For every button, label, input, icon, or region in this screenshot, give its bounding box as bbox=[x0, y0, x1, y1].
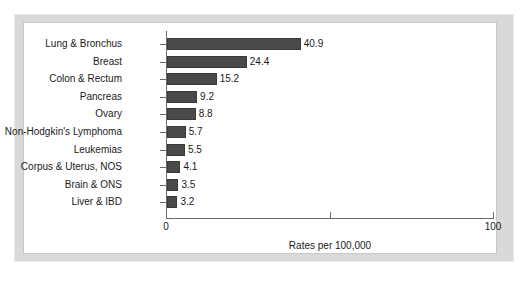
bar bbox=[167, 144, 185, 156]
category-label: Breast bbox=[0, 54, 122, 70]
bar-value-label: 8.8 bbox=[199, 106, 213, 122]
x-axis-title: Rates per 100,000 bbox=[166, 240, 494, 251]
bar-value-label: 5.7 bbox=[189, 124, 203, 140]
bar-value-label: 9.2 bbox=[200, 89, 214, 105]
category-label: Liver & IBD bbox=[0, 194, 122, 210]
y-axis-tick bbox=[160, 132, 166, 133]
x-axis-tick bbox=[166, 212, 167, 218]
category-label: Pancreas bbox=[0, 89, 122, 105]
bar-value-label: 15.2 bbox=[220, 71, 239, 87]
category-label: Colon & Rectum bbox=[0, 71, 122, 87]
y-axis-tick bbox=[160, 150, 166, 151]
bar-value-label: 3.2 bbox=[180, 194, 194, 210]
chart-bar-row: Breast24.4 bbox=[0, 54, 528, 70]
chart-bar-row: Leukemias5.5 bbox=[0, 142, 528, 158]
bar-value-label: 24.4 bbox=[250, 54, 269, 70]
y-axis-tick bbox=[160, 44, 166, 45]
category-label: Leukemias bbox=[0, 142, 122, 158]
x-axis-line bbox=[166, 218, 494, 219]
y-axis-tick bbox=[160, 79, 166, 80]
chart-bar-row: Non-Hodgkin's Lymphoma5.7 bbox=[0, 124, 528, 140]
y-axis-tick bbox=[160, 97, 166, 98]
bar-value-label: 3.5 bbox=[181, 177, 195, 193]
bar bbox=[167, 73, 217, 85]
category-label: Lung & Bronchus bbox=[0, 36, 122, 52]
bar-value-label: 5.5 bbox=[188, 142, 202, 158]
plot-area: Rates per 100,000 0100Lung & Bronchus40.… bbox=[0, 0, 528, 282]
chart-bar-row: Corpus & Uterus, NOS4.1 bbox=[0, 159, 528, 175]
bar bbox=[167, 196, 177, 208]
bar-value-label: 4.1 bbox=[183, 159, 197, 175]
chart-bar-row: Lung & Bronchus40.9 bbox=[0, 36, 528, 52]
chart-bar-row: Brain & ONS3.5 bbox=[0, 177, 528, 193]
bar bbox=[167, 56, 247, 68]
bar bbox=[167, 91, 197, 103]
bar-value-label: 40.9 bbox=[304, 36, 323, 52]
y-axis-tick bbox=[160, 167, 166, 168]
y-axis-tick bbox=[160, 185, 166, 186]
category-label: Corpus & Uterus, NOS bbox=[0, 159, 122, 175]
bar bbox=[167, 126, 186, 138]
x-axis-tick-label: 100 bbox=[479, 221, 507, 232]
bar bbox=[167, 161, 180, 173]
chart-figure: Rates per 100,000 0100Lung & Bronchus40.… bbox=[0, 0, 528, 282]
category-label: Ovary bbox=[0, 106, 122, 122]
category-label: Brain & ONS bbox=[0, 177, 122, 193]
bar bbox=[167, 38, 301, 50]
x-axis-tick bbox=[330, 212, 331, 218]
x-axis-tick bbox=[493, 212, 494, 218]
chart-bar-row: Ovary8.8 bbox=[0, 106, 528, 122]
bar bbox=[167, 179, 178, 191]
y-axis-tick bbox=[160, 62, 166, 63]
chart-bar-row: Liver & IBD3.2 bbox=[0, 194, 528, 210]
y-axis-tick bbox=[160, 114, 166, 115]
bar bbox=[167, 108, 196, 120]
chart-bar-row: Colon & Rectum15.2 bbox=[0, 71, 528, 87]
x-axis-tick-label: 0 bbox=[152, 221, 180, 232]
category-label: Non-Hodgkin's Lymphoma bbox=[0, 124, 122, 140]
chart-bar-row: Pancreas9.2 bbox=[0, 89, 528, 105]
y-axis-tick bbox=[160, 202, 166, 203]
